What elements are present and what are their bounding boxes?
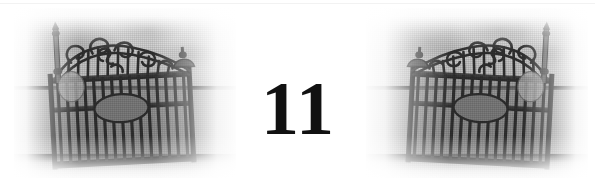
right-gate-photo-content (366, 8, 588, 178)
wrought-iron-gate-icon (366, 8, 588, 178)
top-rule-divider (0, 3, 595, 4)
page-number: 11 (236, 70, 360, 146)
book-page-header: 11 (0, 0, 595, 184)
left-gate-photo-content (14, 8, 236, 178)
left-gate-photo (14, 8, 236, 178)
right-gate-photo (366, 8, 588, 178)
wrought-iron-gate-icon (14, 8, 236, 178)
